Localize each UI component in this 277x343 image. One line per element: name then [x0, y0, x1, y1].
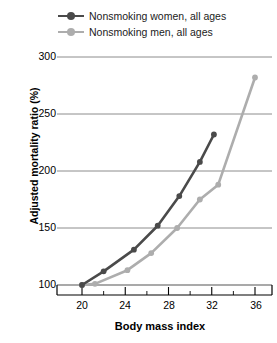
series-line — [82, 135, 214, 285]
series-line — [82, 78, 255, 285]
data-point — [215, 182, 221, 188]
data-point — [79, 282, 85, 288]
data-point — [101, 268, 107, 274]
series-men — [79, 75, 258, 288]
series-women — [79, 132, 217, 288]
plot-area — [0, 0, 277, 343]
data-point — [176, 193, 182, 199]
data-point — [211, 132, 217, 138]
x-axis — [57, 285, 272, 295]
data-point — [197, 159, 203, 165]
data-point — [131, 247, 137, 253]
data-point — [174, 225, 180, 231]
data-point — [148, 250, 154, 256]
data-point — [252, 75, 258, 81]
gridlines — [57, 57, 272, 285]
data-point — [92, 281, 98, 287]
chart-container: Nonsmoking women, all ages Nonsmoking me… — [0, 0, 277, 343]
data-point — [125, 267, 131, 273]
data-point — [197, 197, 203, 203]
data-point — [155, 223, 161, 229]
